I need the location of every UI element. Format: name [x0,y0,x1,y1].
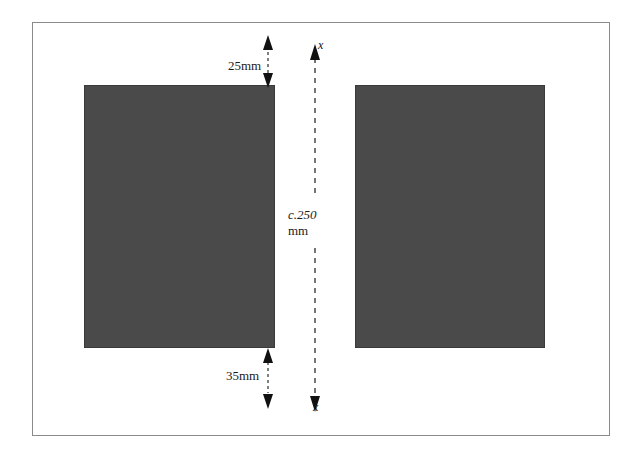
axis-length-line2: mm [288,223,317,239]
right-hatched-block [355,85,545,348]
axis-length-line1: c.250 [288,207,317,223]
axis-length-label: c.250 mm [288,207,317,240]
dimension-label-25mm: 25mm [228,59,261,74]
axis-marker-top-x: x [318,38,323,53]
dimension-label-35mm: 35mm [226,369,259,384]
diagram-canvas: 25mm 35mm c.250 mm x x [0,0,640,461]
axis-marker-bottom-x: x [313,400,318,415]
left-hatched-block [84,85,275,348]
